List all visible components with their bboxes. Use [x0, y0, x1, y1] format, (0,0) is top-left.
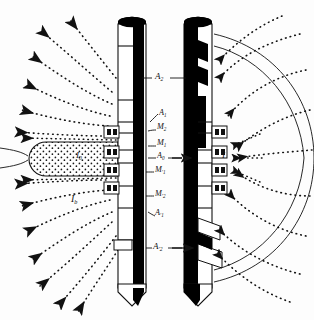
streamline-left-solid [0, 148, 28, 168]
flow-lines-right-mid [232, 134, 262, 182]
label-current-I-right: I [222, 151, 225, 160]
callout-leaders [142, 78, 186, 248]
label-M1: M1 [157, 139, 166, 147]
label-M2: M2 [157, 123, 166, 131]
electrode-pads-right [212, 126, 227, 194]
label-A1-prime: A′1 [155, 209, 164, 217]
label-A2: A2 [155, 72, 163, 81]
label-A0: A0 [157, 152, 165, 160]
label-A1: A1 [159, 109, 167, 117]
callout-arrow-heads [172, 158, 184, 248]
label-M1-prime: M′1 [155, 166, 165, 174]
label-current-Ib: Ib [71, 194, 77, 204]
laterolog-diagram: A2 A1 M2 M1 A0 M′1 M′2 A′1 A′2 Ib I0 I [0, 0, 314, 320]
label-M2-prime: M′2 [155, 190, 165, 198]
label-A2-prime: A′2 [153, 242, 163, 251]
label-current-I0: I0 [76, 151, 82, 160]
equipotential-arcs-right [214, 34, 314, 282]
